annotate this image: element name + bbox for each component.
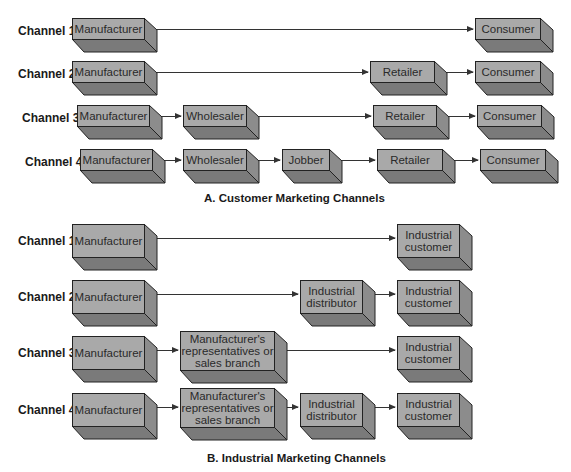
box-label: Wholesaler <box>183 149 247 171</box>
flow-arrow-icon <box>447 116 475 117</box>
channel-label: Channel 1 <box>18 24 75 38</box>
channel-label: Channel 2 <box>18 290 75 304</box>
box-label: Manufacturer <box>72 224 145 258</box>
box-label: Consumer <box>475 18 541 40</box>
box-label: Retailer <box>370 61 435 83</box>
box-label: Manufacturer <box>72 393 145 427</box>
channel-label: Channel 4 <box>25 155 82 169</box>
flow-arrow-icon <box>445 72 473 73</box>
section-a-title: A. Customer Marketing Channels <box>204 192 385 204</box>
channel-label: Channel 2 <box>18 67 75 81</box>
box-label: Wholesaler <box>183 105 247 127</box>
flow-arrow-icon <box>155 238 395 239</box>
box-label: Manufacturer <box>77 105 150 127</box>
box-label: Retailer <box>377 149 443 171</box>
box-label: Industrial customer <box>397 280 460 314</box>
box-label: Industrial customer <box>397 393 460 427</box>
flow-arrow-icon <box>257 116 371 117</box>
box-label: Manufacturer <box>72 18 145 40</box>
box-label: Manufacturer <box>72 336 145 370</box>
section-b-title: B. Industrial Marketing Channels <box>207 452 386 464</box>
box-label: Consumer <box>475 61 541 83</box>
channel-label: Channel 3 <box>22 111 79 125</box>
flow-arrow-icon <box>155 294 298 295</box>
box-label: Manufacturer <box>72 61 145 83</box>
box-label: Manufacturer's representatives or sales … <box>180 388 275 428</box>
box-label: Jobber <box>282 149 330 171</box>
box-label: Industrial distributor <box>300 393 363 427</box>
channel-label: Channel 3 <box>18 346 75 360</box>
channel-label: Channel 1 <box>18 234 75 248</box>
box-label: Manufacturer's representatives or sales … <box>180 331 275 371</box>
box-label: Manufacturer <box>72 280 145 314</box>
box-label: Industrial customer <box>397 336 460 370</box>
box-label: Consumer <box>477 105 542 127</box>
box-label: Industrial customer <box>397 224 460 258</box>
box-label: Manufacturer <box>80 149 153 171</box>
flow-arrow-icon <box>285 350 395 351</box>
flow-arrow-icon <box>155 29 473 30</box>
box-label: Consumer <box>480 149 546 171</box>
channel-label: Channel 4 <box>18 403 75 417</box>
box-label: Industrial distributor <box>300 280 363 314</box>
flow-arrow-icon <box>155 72 368 73</box>
box-label: Retailer <box>373 105 437 127</box>
flow-arrow-icon <box>340 160 375 161</box>
